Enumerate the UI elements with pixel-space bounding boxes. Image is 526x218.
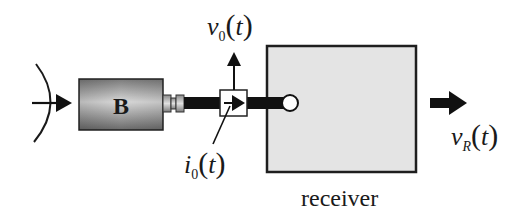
label-vR-open: ( [471,118,481,151]
source-block-label: B [113,93,129,119]
label-i0-open: ( [198,146,208,179]
label-v0-open: ( [226,8,236,41]
label-i0: i0(t) [184,146,225,183]
label-vR: vR(t) [451,118,498,155]
sensor-box [220,90,247,116]
label-vR-var: v [451,122,463,151]
label-vR-close: ) [488,118,498,151]
voltage-up-arrow-icon [227,52,241,90]
label-v0-var: v [207,12,219,41]
label-i0-close: ) [215,146,225,179]
input-arrow-icon [32,94,72,112]
label-v0: v0(t) [207,8,253,45]
label-v0-close: ) [243,8,253,41]
label-v0-arg: t [236,12,243,41]
diagram-canvas: B [0,0,526,218]
output-arrow-icon [430,91,467,115]
label-vR-sub: R [463,139,472,154]
receiver-port-icon [282,95,298,111]
receiver-label: receiver [301,185,378,212]
connector-icon [163,95,184,112]
label-v0-sub: 0 [219,29,226,44]
